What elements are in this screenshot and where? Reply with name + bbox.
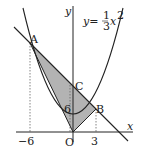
equation-lhs: y= <box>82 15 98 28</box>
tick-6: 6 <box>64 103 71 116</box>
point-a-label: A <box>29 33 39 46</box>
equation-exp: 2 <box>117 9 124 22</box>
equation-var: x <box>110 15 117 28</box>
tick-neg6: −6 <box>18 135 34 148</box>
origin-label: O <box>65 136 74 149</box>
x-axis-label: x <box>127 120 134 133</box>
tick-3: 3 <box>91 135 98 148</box>
point-c-label: C <box>75 80 83 93</box>
point-b-label: B <box>96 103 104 116</box>
y-axis-label: y <box>64 5 72 18</box>
equation-den: 3 <box>103 20 110 33</box>
diagram: y x O A B C −6 3 6 y= 1 3 x 2 <box>0 0 141 157</box>
